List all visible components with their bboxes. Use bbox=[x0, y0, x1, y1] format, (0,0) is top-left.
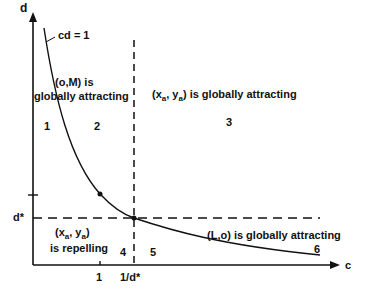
x-tick-label-inv-dstar: 1/d* bbox=[120, 271, 140, 283]
y-tick-label: d* bbox=[13, 211, 24, 223]
x-tick-label-1: 1 bbox=[96, 271, 102, 283]
lo-global-label: (L,o) is globally attracting bbox=[207, 229, 341, 241]
y-axis-label: d bbox=[20, 2, 27, 14]
equilibrium-point bbox=[132, 216, 137, 221]
region-2: 2 bbox=[94, 120, 100, 132]
xa-repelling-line1: (xa, ya) bbox=[55, 226, 90, 243]
om-label-line1: (o,M) is bbox=[55, 76, 94, 88]
x-axis-label: c bbox=[345, 259, 351, 271]
om-label-line2: globally attracting bbox=[34, 90, 129, 102]
x-axis-arrow-icon bbox=[330, 261, 340, 269]
xa-global-label: (xa, ya) is globally attracting bbox=[152, 88, 297, 105]
y-axis-arrow-icon bbox=[29, 12, 37, 22]
region-6: 6 bbox=[314, 243, 320, 255]
region-5: 5 bbox=[150, 246, 156, 258]
point-marker bbox=[98, 192, 103, 197]
curve-label: cd = 1 bbox=[58, 29, 90, 41]
region-3: 3 bbox=[226, 116, 232, 128]
curve-label-leader bbox=[46, 37, 55, 42]
region-4: 4 bbox=[120, 246, 126, 258]
xa-repelling-line2: is repelling bbox=[50, 242, 108, 254]
curve-cd-1 bbox=[44, 28, 320, 255]
region-1: 1 bbox=[44, 120, 50, 132]
